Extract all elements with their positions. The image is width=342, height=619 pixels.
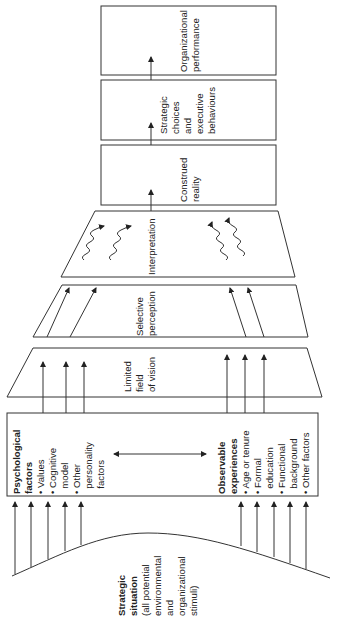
label-line: Construed [178, 158, 190, 202]
psych-item: personality [83, 429, 95, 494]
psych-item: • Other [71, 429, 83, 494]
interpretation-label: Interpretation [146, 218, 158, 275]
limited-field-trapezoid [7, 348, 322, 397]
organizational-performance-label: Organizational performance [178, 10, 202, 72]
label-line: choices [170, 87, 182, 134]
label-line: Organizational [178, 10, 190, 72]
construed-reality-label: Construed reality [178, 158, 202, 202]
psychological-title: factors [23, 462, 34, 494]
label-line: behaviours [206, 87, 218, 134]
label-line: field [134, 357, 146, 392]
strategic-choices-label: Strategic choices and executive behaviou… [158, 87, 218, 134]
label-line: Interpretation [146, 218, 158, 275]
observable-experiences-label: Observable experiences • Age or tenure •… [216, 430, 312, 494]
psych-item: model [59, 429, 71, 494]
obs-item: • Other factors [300, 430, 312, 494]
label-line: reality [190, 158, 202, 202]
selective-perception-label: Selective perception [134, 291, 158, 336]
label-line: Selective [134, 291, 146, 336]
label-line: perception [146, 291, 158, 336]
situation-desc: organizational [176, 556, 188, 616]
situation-desc: and [164, 556, 176, 616]
situation-desc: environmental [152, 556, 164, 616]
obs-item: background [288, 430, 300, 494]
psych-item: factors [95, 429, 107, 494]
observable-title: Observable [216, 442, 227, 494]
psych-item: • Values [35, 429, 47, 494]
label-line: of vision [146, 357, 158, 392]
label-line: Strategic [158, 87, 170, 134]
psych-item: • Cognitive [47, 429, 59, 494]
situation-desc: (all potential [140, 556, 152, 616]
situation-desc: stimuli) [188, 556, 200, 616]
label-line: Limited [122, 357, 134, 392]
obs-item: • Formal [252, 430, 264, 494]
obs-item: • Age or tenure [240, 430, 252, 494]
psychological-title: Psychological [11, 429, 22, 494]
label-line: performance [190, 10, 202, 72]
label-line: executive [194, 87, 206, 134]
situation-title: Strategic [116, 575, 127, 616]
strategic-situation-label: Strategic situation (all potential envir… [116, 556, 200, 616]
label-line: and [182, 87, 194, 134]
obs-item: education [264, 430, 276, 494]
obs-item: • Functional [276, 430, 288, 494]
psychological-factors-label: Psychological factors • Values • Cogniti… [11, 429, 107, 494]
interpretation-trapezoid [61, 211, 295, 277]
observable-title: experiences [228, 439, 239, 494]
limited-field-label: Limited field of vision [122, 357, 158, 392]
situation-title: situation [128, 576, 139, 616]
